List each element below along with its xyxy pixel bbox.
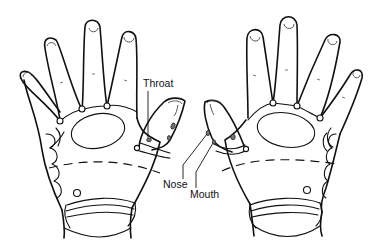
right-middle-finger xyxy=(273,17,297,106)
left-throat-point xyxy=(147,138,152,142)
right-ring-finger xyxy=(297,35,340,118)
left-palm-oval xyxy=(68,109,128,153)
right-thumb xyxy=(204,100,245,152)
left-hand xyxy=(20,20,185,238)
mouth-leader-line xyxy=(196,143,213,188)
right-dashed-line xyxy=(222,160,337,171)
throat-label: Throat xyxy=(143,77,173,89)
nose-label: Nose xyxy=(163,178,188,190)
left-pinky-finger xyxy=(20,71,60,121)
right-hand xyxy=(204,17,362,237)
nose-leader-line xyxy=(183,134,207,179)
left-dashed-line xyxy=(49,162,160,173)
mouth-label: Mouth xyxy=(190,188,219,200)
hand-reflexology-diagram: Throat Nose Mouth xyxy=(0,0,385,246)
left-middle-finger xyxy=(82,20,107,110)
right-index-finger xyxy=(247,30,273,118)
right-palm-oval xyxy=(254,108,317,152)
left-ring-finger xyxy=(45,38,82,120)
